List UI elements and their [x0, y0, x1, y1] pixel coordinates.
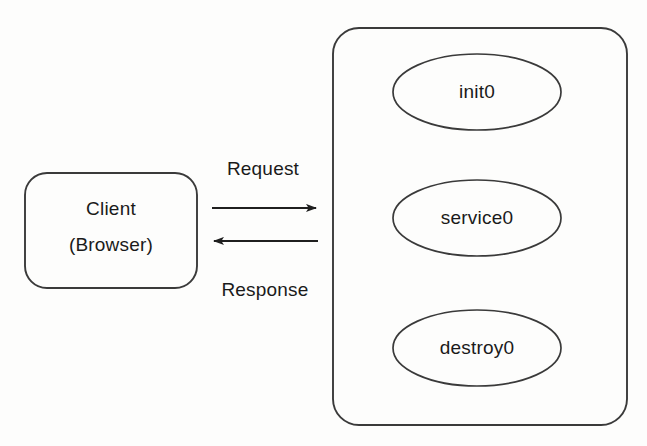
- client-box-outline: [25, 173, 197, 288]
- request-arrow[interactable]: Request: [212, 158, 316, 208]
- init-node[interactable]: init0: [393, 54, 561, 130]
- destroy-node-label: destroy0: [440, 337, 514, 358]
- diagram-svg: init0 service0 destroy0 Client (Browser)…: [0, 0, 647, 446]
- destroy-node[interactable]: destroy0: [393, 310, 561, 386]
- request-arrow-label: Request: [227, 158, 300, 179]
- client-box[interactable]: Client (Browser): [25, 173, 197, 288]
- client-box-label-line2: (Browser): [69, 234, 153, 255]
- service-node[interactable]: service0: [393, 180, 561, 256]
- service-node-label: service0: [441, 207, 513, 228]
- client-box-label-line1: Client: [86, 198, 136, 219]
- init-node-label: init0: [459, 81, 495, 102]
- diagram-canvas: init0 service0 destroy0 Client (Browser)…: [0, 0, 647, 446]
- response-arrow[interactable]: Response: [214, 241, 318, 300]
- response-arrow-label: Response: [221, 279, 308, 300]
